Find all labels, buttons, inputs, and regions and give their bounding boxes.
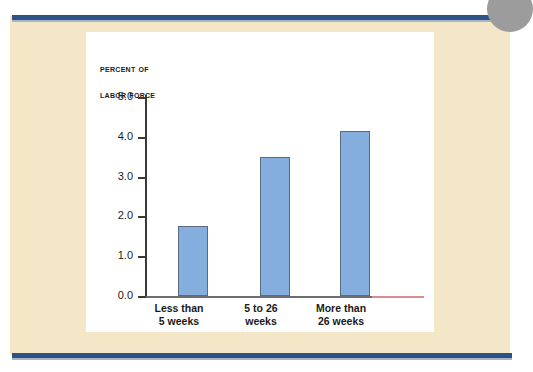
y-tick-label: 1.0 [118,249,133,261]
y-tick-label: 3.0 [118,170,133,182]
x-axis-label-line: More than [293,302,389,315]
x-axis-line [145,296,410,298]
y-tick: 5.0 [138,97,146,99]
x-axis-label-line: 26 weeks [293,315,389,328]
bar-more-than-26-weeks[interactable] [340,131,370,296]
chart-panel: Percent of Labor Force 5.0 4.0 3.0 2.0 1… [86,32,434,332]
x-axis-label-2: More than 26 weeks [293,302,389,328]
y-tick: 2.0 [138,216,146,218]
y-tick: 3.0 [138,177,146,179]
y-tick-label: 5.0 [118,90,133,102]
bar-less-than-5-weeks[interactable] [178,226,208,296]
y-axis-line [145,95,147,298]
y-tick-label: 2.0 [118,209,133,221]
top-rule-shadow [12,20,512,22]
y-tick-label: 4.0 [118,130,133,142]
x-axis-line-tail [372,296,424,298]
y-tick: 0.0 [138,296,146,298]
bar-5-to-26-weeks[interactable] [260,157,290,296]
y-tick-label: 0.0 [118,289,133,301]
bottom-rule-shadow [12,358,512,360]
plot-area: 5.0 4.0 3.0 2.0 1.0 0.0 Less than 5 week… [86,32,434,332]
y-tick: 1.0 [138,256,146,258]
y-tick: 4.0 [138,137,146,139]
